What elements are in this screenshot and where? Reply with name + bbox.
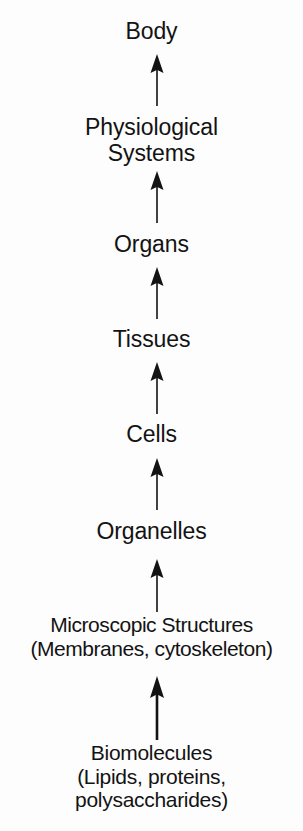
level-physiological-systems: Physiological Systems xyxy=(0,114,303,166)
arrow-biomolecules-to-microscopic-structures-icon xyxy=(143,676,171,740)
level-organelles-line-1: Organelles xyxy=(0,518,303,544)
level-cells: Cells xyxy=(0,421,303,447)
organization-hierarchy-diagram: Body Physiological Systems Organs Tissue… xyxy=(0,0,303,831)
arrow-organs-to-systems-icon xyxy=(143,171,171,223)
level-biomolecules: Biomolecules (Lipids, proteins, polysacc… xyxy=(0,741,303,812)
level-body-line-1: Body xyxy=(0,18,303,44)
level-biomolecules-line-2: (Lipids, proteins, xyxy=(0,765,303,789)
level-physiological-systems-line-2: Systems xyxy=(0,140,303,166)
arrow-systems-to-body-icon xyxy=(143,54,171,106)
level-microscopic-structures-line-2: (Membranes, cytoskeleton) xyxy=(0,637,303,661)
level-organs: Organs xyxy=(0,231,303,257)
level-cells-line-1: Cells xyxy=(0,421,303,447)
arrow-micro-to-organelles-icon xyxy=(143,559,171,612)
level-organs-line-1: Organs xyxy=(0,231,303,257)
arrow-organelles-to-cells-icon xyxy=(143,458,171,510)
level-organelles: Organelles xyxy=(0,518,303,544)
level-microscopic-structures-line-1: Microscopic Structures xyxy=(0,613,303,637)
level-biomolecules-line-1: Biomolecules xyxy=(0,741,303,765)
arrow-tissues-to-organs-icon xyxy=(143,267,171,319)
arrow-cells-to-tissues-icon xyxy=(143,362,171,414)
level-tissues: Tissues xyxy=(0,326,303,352)
level-microscopic-structures: Microscopic Structures (Membranes, cytos… xyxy=(0,613,303,660)
level-physiological-systems-line-1: Physiological xyxy=(0,114,303,140)
level-tissues-line-1: Tissues xyxy=(0,326,303,352)
level-body: Body xyxy=(0,18,303,44)
level-biomolecules-line-3: polysaccharides) xyxy=(0,788,303,812)
